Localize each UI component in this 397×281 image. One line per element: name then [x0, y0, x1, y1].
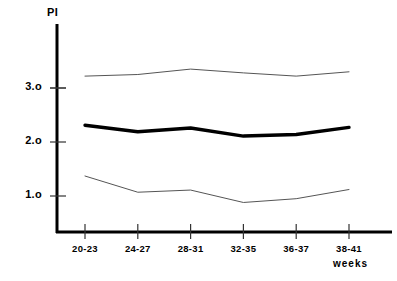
y-tick-label: 2.o — [8, 134, 42, 146]
x-tick-label: 20-23 — [57, 243, 113, 254]
x-tick-label: 28-31 — [163, 243, 219, 254]
series-line-mean — [85, 125, 349, 136]
x-tick-label: 36-37 — [268, 243, 324, 254]
x-tick-label: 32-35 — [215, 243, 271, 254]
chart-figure: PI weeks 3.o2.o1.o 20-2324-2728-3132-353… — [0, 0, 397, 281]
data-series-group — [85, 69, 349, 202]
y-tick-label: 1.o — [8, 188, 42, 200]
series-line-upper-percentile — [85, 69, 349, 76]
y-tick-label: 3.o — [8, 80, 42, 92]
plot-area — [0, 0, 397, 281]
x-tick-label: 38-41 — [321, 243, 377, 254]
x-tick-label: 24-27 — [110, 243, 166, 254]
series-line-lower-percentile — [85, 176, 349, 202]
